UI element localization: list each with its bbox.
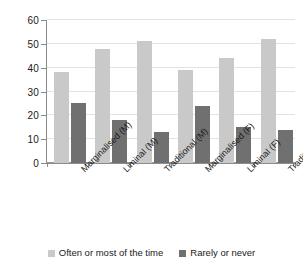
- legend-item: Rarely or never: [179, 248, 255, 258]
- x-axis-labels: Marginalised (M)Liminal (M)Traditional (…: [47, 167, 295, 239]
- x-axis-category-label: Liminal (F): [245, 167, 252, 174]
- legend-label: Rarely or never: [190, 248, 255, 258]
- y-axis-labels: 0102030405060: [0, 20, 39, 164]
- bar: [71, 103, 86, 163]
- bar-group: [47, 20, 88, 163]
- y-axis-tick-label: 10: [27, 135, 39, 145]
- bar: [278, 130, 293, 163]
- chart-legend: Often or most of the timeRarely or never: [0, 248, 303, 258]
- x-axis-category-label: Marginalised (M): [79, 167, 86, 174]
- bar: [154, 132, 169, 163]
- y-axis-tick-label: 0: [33, 159, 39, 169]
- y-axis-tick-label: 20: [27, 111, 39, 121]
- legend-item: Often or most of the time: [48, 248, 164, 258]
- x-axis-category-label: Traditional (F): [286, 167, 293, 174]
- x-axis-category-label: Traditional (M): [162, 167, 169, 174]
- x-axis-category-label: Liminal (M): [121, 167, 128, 174]
- legend-swatch-icon: [179, 250, 186, 257]
- bar: [54, 72, 69, 163]
- bar-chart: 0102030405060 Marginalised (M)Liminal (M…: [0, 0, 303, 274]
- x-axis-category-label: Marginalised (F): [203, 167, 210, 174]
- legend-label: Often or most of the time: [59, 248, 164, 258]
- bar-groups: [47, 20, 295, 163]
- y-axis-tick-label: 40: [27, 64, 39, 74]
- plot-area: [47, 20, 295, 163]
- y-axis-tick-label: 50: [27, 40, 39, 50]
- y-axis-tick-label: 30: [27, 88, 39, 98]
- y-axis-tick-label: 60: [27, 16, 39, 26]
- legend-swatch-icon: [48, 250, 55, 257]
